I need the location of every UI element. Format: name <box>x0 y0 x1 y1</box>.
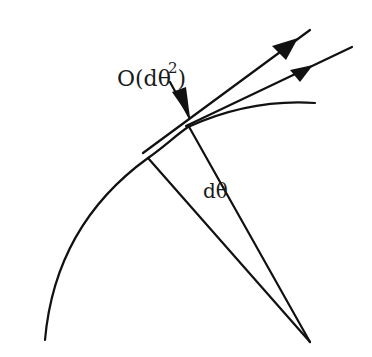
error-order-label: O(dθ2) <box>117 59 186 91</box>
angle-label: dθ <box>203 179 228 203</box>
arrowhead-lower-icon <box>290 65 313 82</box>
arrowhead-upper-icon-fill <box>272 38 298 60</box>
arc-curve <box>45 102 315 340</box>
radius-line-right <box>188 125 310 342</box>
radius-line-left <box>148 158 310 342</box>
diagram-canvas: O(dθ2) dθ <box>0 0 372 357</box>
